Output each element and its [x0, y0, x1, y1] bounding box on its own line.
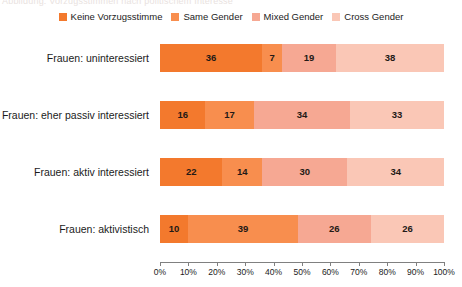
bar-segment-value: 34	[390, 167, 401, 177]
bar-segment-value: 30	[300, 167, 311, 177]
legend-item-label: Keine Vorzugsstimme	[71, 12, 163, 22]
bar-segment[interactable]: 14	[222, 158, 262, 186]
category-label: Frauen: aktiv interessiert	[0, 152, 155, 192]
bar-segment-value: 7	[270, 53, 275, 63]
bar-segment[interactable]: 34	[347, 158, 444, 186]
bar-segment-value: 39	[238, 224, 249, 234]
bar-segment[interactable]: 26	[298, 215, 371, 243]
category-label: Frauen: eher passiv interessiert	[0, 95, 155, 135]
axis-tick-label: 30%	[237, 268, 254, 277]
axis-tick-label: 20%	[208, 268, 225, 277]
chart-row: Frauen: aktiv interessiert22143034	[0, 152, 462, 192]
axis-tick-mark	[160, 262, 161, 266]
axis-tick-label: 50%	[293, 268, 310, 277]
square-swatch-icon	[59, 13, 67, 21]
cropped-caption-sliver: Abbildung: Vorzugsstimmen nach politisch…	[0, 0, 462, 7]
axis-tick-mark	[217, 262, 218, 266]
bar-segment-value: 22	[186, 167, 197, 177]
square-swatch-icon	[252, 13, 260, 21]
legend-item[interactable]: Mixed Gender	[252, 12, 324, 22]
axis-tick-mark	[302, 262, 303, 266]
axis-tick-mark	[387, 262, 388, 266]
axis-tick-mark	[245, 262, 246, 266]
legend-item[interactable]: Cross Gender	[332, 12, 403, 22]
bar-segment-value: 26	[402, 224, 413, 234]
axis-tick-mark	[188, 262, 189, 266]
legend-item[interactable]: Same Gender	[171, 12, 242, 22]
axis-tick-label: 70%	[350, 268, 367, 277]
legend-item[interactable]: Keine Vorzugsstimme	[59, 12, 163, 22]
category-label: Frauen: uninteressiert	[0, 38, 155, 78]
chart-row: Frauen: aktivistisch10392626	[0, 209, 462, 249]
axis-tick-label: 60%	[322, 268, 339, 277]
bar-segment-value: 38	[385, 53, 396, 63]
axis-tick-label: 10%	[180, 268, 197, 277]
chart-row: Frauen: eher passiv interessiert16173433	[0, 95, 462, 135]
bar-segment-value: 34	[297, 110, 308, 120]
bar-segment[interactable]: 30	[262, 158, 347, 186]
axis-tick-mark	[359, 262, 360, 266]
bar-segment[interactable]: 22	[160, 158, 222, 186]
stacked-bar: 3671938	[160, 44, 444, 72]
square-swatch-icon	[332, 13, 340, 21]
plot-area: Frauen: uninteressiert3671938Frauen: ehe…	[0, 30, 462, 258]
axis-tick-label: 40%	[265, 268, 282, 277]
bar-segment[interactable]: 34	[254, 101, 351, 129]
legend-item-label: Mixed Gender	[264, 12, 324, 22]
chart-legend: Keine VorzugsstimmeSame GenderMixed Gend…	[0, 12, 462, 22]
bar-segment-value: 36	[206, 53, 217, 63]
bar-segment[interactable]: 39	[188, 215, 298, 243]
bar-segment-value: 17	[224, 110, 235, 120]
chart-row: Frauen: uninteressiert3671938	[0, 38, 462, 78]
bar-segment-value: 14	[237, 167, 248, 177]
bar-segment[interactable]: 7	[262, 44, 282, 72]
bar-segment[interactable]: 38	[336, 44, 444, 72]
legend-item-label: Cross Gender	[344, 12, 403, 22]
bar-segment[interactable]: 36	[160, 44, 262, 72]
bar-segment-value: 26	[329, 224, 340, 234]
bar-segment-value: 16	[177, 110, 188, 120]
axis-tick-label: 100%	[433, 268, 455, 277]
legend-item-label: Same Gender	[183, 12, 242, 22]
axis-tick-mark	[416, 262, 417, 266]
cropped-caption-text: Abbildung: Vorzugsstimmen nach politisch…	[0, 0, 462, 6]
axis-tick-mark	[274, 262, 275, 266]
bar-segment-value: 33	[392, 110, 403, 120]
axis-tick-mark	[444, 262, 445, 266]
bar-segment[interactable]: 19	[282, 44, 336, 72]
stacked-bar-chart: Abbildung: Vorzugsstimmen nach politisch…	[0, 0, 462, 287]
bar-segment-value: 10	[169, 224, 180, 234]
bar-segment[interactable]: 26	[371, 215, 444, 243]
axis-tick-label: 80%	[379, 268, 396, 277]
bar-segment[interactable]: 16	[160, 101, 205, 129]
axis-tick-mark	[330, 262, 331, 266]
square-swatch-icon	[171, 13, 179, 21]
bar-segment[interactable]: 17	[205, 101, 253, 129]
stacked-bar: 10392626	[160, 215, 444, 243]
bar-segment-value: 19	[304, 53, 315, 63]
stacked-bar: 22143034	[160, 158, 444, 186]
axis-tick-label: 0%	[154, 268, 166, 277]
bar-segment[interactable]: 33	[350, 101, 444, 129]
bar-segment[interactable]: 10	[160, 215, 188, 243]
axis-tick-label: 90%	[407, 268, 424, 277]
stacked-bar: 16173433	[160, 101, 444, 129]
category-label: Frauen: aktivistisch	[0, 209, 155, 249]
